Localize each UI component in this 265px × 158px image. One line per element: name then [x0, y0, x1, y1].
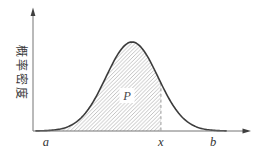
y-axis-arrowhead: [31, 8, 36, 17]
shaded-area: [40, 42, 161, 131]
y-axis-label: 概率密度: [14, 45, 29, 101]
x-tick-label-a: a: [43, 135, 49, 149]
figure-canvas: P a x b 概率密度: [0, 0, 265, 158]
x-tick-label-x: x: [157, 135, 164, 149]
x-axis-arrowhead: [243, 129, 252, 134]
x-tick-label-b: b: [210, 135, 216, 149]
probability-density-figure: P a x b 概率密度: [0, 0, 265, 158]
region-label: P: [122, 89, 131, 103]
